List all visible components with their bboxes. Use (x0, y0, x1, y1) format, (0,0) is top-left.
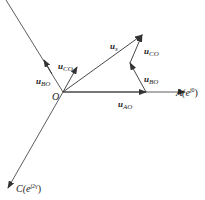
u-bo-axis-arrow (44, 60, 52, 74)
origin-label: O (52, 92, 59, 102)
u-co-chain-label: uCO (144, 47, 159, 58)
b-axis-line (6, 0, 63, 92)
diagram-lines (0, 0, 205, 200)
u-ao-label: uAO (118, 100, 132, 111)
u-co-axis-label: uCO (58, 62, 73, 73)
c-axis-line (8, 92, 63, 188)
u-bo-chain-label: uBO (144, 75, 158, 86)
c-axis-label: C(ej2γ) (16, 183, 41, 194)
space-vector-diagram: O uBO uCO us uCO uBO uAO A(ej0) C(ej2γ) (0, 0, 205, 200)
a-axis-label: A(ej0) (176, 87, 198, 98)
u-s-label: us (110, 42, 118, 53)
u-bo-axis-label: uBO (36, 77, 50, 88)
